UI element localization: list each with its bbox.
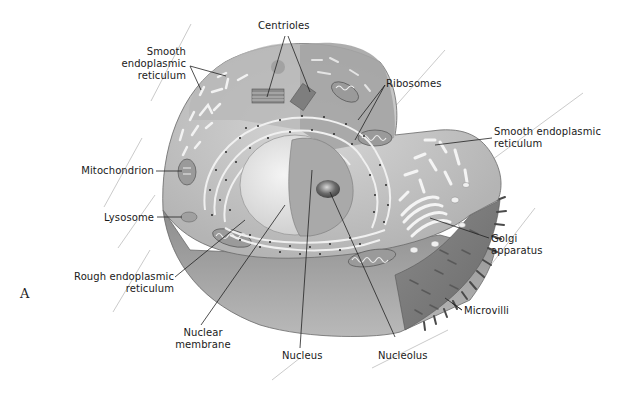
cut-plane-left bbox=[189, 43, 300, 130]
label-smooth-er-right-1: Smooth endoplasmic bbox=[494, 126, 601, 138]
cell-illustration bbox=[0, 0, 617, 399]
label-nucleus: Nucleus bbox=[282, 350, 323, 362]
label-lysosome: Lysosome bbox=[90, 212, 154, 224]
label-centrioles: Centrioles bbox=[258, 20, 310, 32]
cell-diagram: Centrioles Smooth endoplasmic reticulum … bbox=[0, 0, 617, 399]
label-golgi-2: apparatus bbox=[491, 245, 543, 257]
label-microvilli: Microvilli bbox=[464, 305, 509, 317]
label-smooth-er-left-2: endoplasmic bbox=[118, 58, 186, 70]
label-nuclear-membrane-1: Nuclear bbox=[178, 327, 228, 339]
label-nucleolus: Nucleolus bbox=[378, 350, 428, 362]
nucleolus-shape bbox=[316, 180, 340, 198]
label-smooth-er-right-2: reticulum bbox=[494, 138, 542, 150]
label-nuclear-membrane-2: membrane bbox=[172, 339, 234, 351]
lysosome-shape bbox=[181, 212, 197, 222]
label-mitochondrion: Mitochondrion bbox=[70, 165, 154, 177]
label-smooth-er-left-1: Smooth bbox=[128, 46, 186, 58]
label-rough-er-1: Rough endoplasmic bbox=[70, 271, 174, 283]
label-rough-er-2: reticulum bbox=[70, 283, 174, 295]
label-ribosomes: Ribosomes bbox=[386, 78, 442, 90]
label-smooth-er-left-3: reticulum bbox=[128, 70, 186, 82]
label-golgi-1: Golgi bbox=[491, 233, 517, 245]
panel-letter: A bbox=[20, 286, 29, 301]
